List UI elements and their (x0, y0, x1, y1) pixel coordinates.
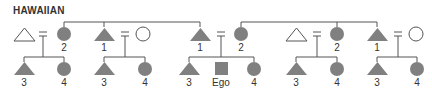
female-filled-icon (410, 62, 424, 76)
male-filled-icon (179, 62, 200, 75)
female-filled-icon (247, 62, 261, 76)
generation-2: 3 4 3 4 3 Ego 4 3 4 3 4 (14, 62, 424, 88)
ego-square-icon (215, 62, 228, 75)
female-filled-icon (138, 62, 152, 76)
generation-1: 2 1 1 2 2 1 (14, 27, 423, 53)
female-filled-icon (57, 27, 71, 41)
female-outline-icon (136, 27, 150, 41)
male-filled-icon (367, 62, 388, 75)
kin-label: 2 (238, 42, 244, 53)
kin-label: 1 (374, 42, 380, 53)
female-filled-icon (57, 62, 71, 76)
kin-label: 3 (374, 77, 380, 88)
kin-label: 2 (334, 42, 340, 53)
kinship-diagram: 2 1 1 2 2 1 3 4 3 4 3 Ego 4 3 4 3 4 (0, 0, 432, 100)
male-filled-icon (94, 28, 115, 41)
male-filled-icon (14, 62, 35, 75)
female-filled-icon (330, 27, 344, 41)
kin-label: 4 (61, 77, 67, 88)
kin-label: 3 (186, 77, 192, 88)
male-filled-icon (190, 28, 211, 41)
kin-label: 4 (414, 77, 420, 88)
male-filled-icon (94, 62, 115, 75)
male-filled-icon (367, 28, 388, 41)
female-filled-icon (234, 27, 248, 41)
kin-label: 4 (251, 77, 257, 88)
female-outline-icon (409, 27, 423, 41)
kin-label: 3 (21, 77, 27, 88)
female-filled-icon (330, 62, 344, 76)
kin-label: 4 (334, 77, 340, 88)
kin-label: 1 (101, 42, 107, 53)
ego-label: Ego (212, 77, 230, 88)
connector-lines (24, 22, 417, 62)
male-filled-icon (286, 62, 307, 75)
kin-label: 3 (101, 77, 107, 88)
male-outline-icon (14, 28, 35, 41)
kin-label: 3 (293, 77, 299, 88)
kin-label: 2 (61, 42, 67, 53)
kin-label: 4 (142, 77, 148, 88)
male-outline-icon (286, 28, 307, 41)
kin-label: 1 (197, 42, 203, 53)
